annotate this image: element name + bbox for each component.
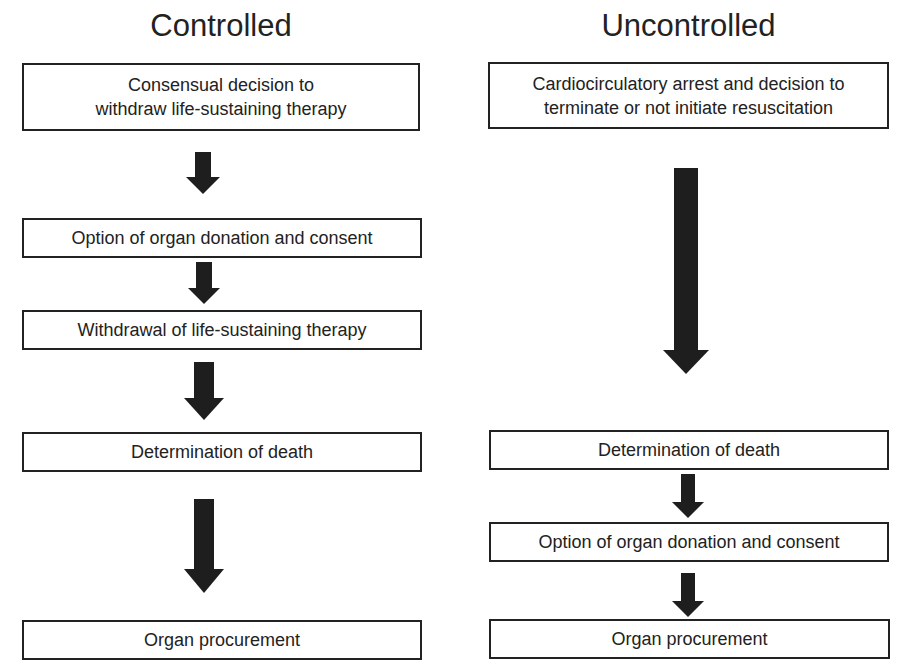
- step-label: Withdrawal of life-sustaining therapy: [77, 318, 366, 342]
- arrow-down-icon: [663, 168, 709, 374]
- step-label: Determination of death: [598, 438, 780, 462]
- arrow-down-icon: [672, 474, 704, 518]
- controlled-step-2: Option of organ donation and consent: [22, 218, 422, 258]
- step-label: Organ procurement: [144, 628, 300, 652]
- uncontrolled-step-1: Cardiocirculatory arrest and decision to…: [488, 62, 889, 129]
- controlled-step-5: Organ procurement: [22, 620, 422, 660]
- step-label: Cardiocirculatory arrest and decision to…: [532, 72, 844, 120]
- controlled-step-1: Consensual decision to withdraw life-sus…: [22, 63, 420, 131]
- controlled-step-3: Withdrawal of life-sustaining therapy: [22, 310, 422, 350]
- step-label: Organ procurement: [611, 627, 767, 651]
- step-label: Option of organ donation and consent: [71, 226, 372, 250]
- controlled-step-4: Determination of death: [22, 432, 422, 472]
- step-label: Consensual decision to withdraw life-sus…: [95, 73, 346, 121]
- uncontrolled-title: Uncontrolled: [488, 8, 889, 44]
- arrow-down-icon: [184, 499, 224, 593]
- step-label: Option of organ donation and consent: [538, 530, 839, 554]
- arrow-down-icon: [186, 152, 220, 194]
- uncontrolled-step-2: Determination of death: [489, 430, 889, 470]
- step-label: Determination of death: [131, 440, 313, 464]
- uncontrolled-step-4: Organ procurement: [489, 619, 890, 659]
- arrow-down-icon: [184, 362, 224, 420]
- uncontrolled-step-3: Option of organ donation and consent: [489, 522, 889, 562]
- arrow-down-icon: [672, 573, 704, 617]
- arrow-down-icon: [188, 262, 220, 304]
- controlled-title: Controlled: [22, 8, 420, 44]
